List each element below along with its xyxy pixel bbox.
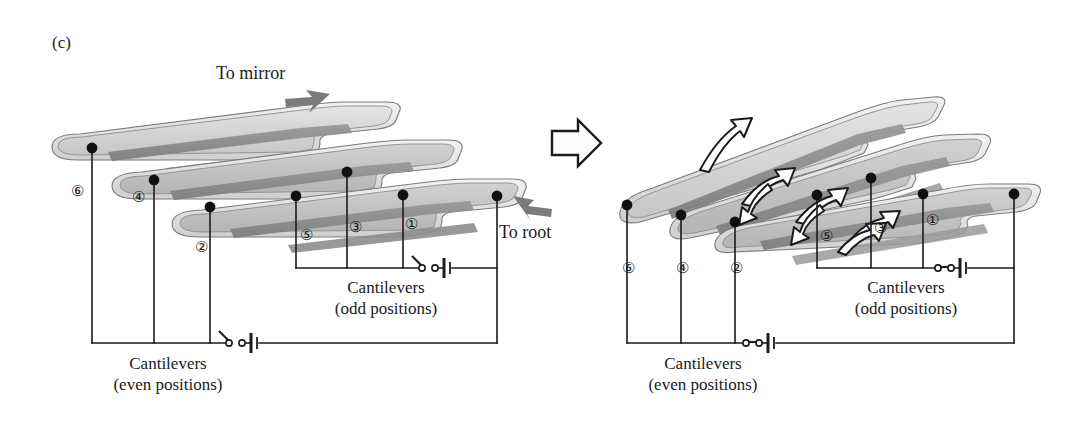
switch-battery-odd-left [412,256,450,278]
caption-even-left-line1: Cantilevers [78,354,258,373]
node-dot-4 [149,175,160,186]
node-dot-1 [918,189,929,200]
caption-even-right-line1: Cantilevers [613,354,793,373]
figure-panel-c: (c) To mirror To root ⑥ ④ ② ⑤ ③ ① Cantil… [0,0,1071,425]
switch-contact-a [743,340,749,346]
node-dot-3 [342,167,353,178]
caption-odd-left-line1: Cantilevers [306,278,466,297]
node-dot-4 [676,210,687,221]
cantilever-number-2-right: ② [730,260,743,277]
node-dot-6 [87,143,98,154]
to-mirror-label: To mirror [216,63,285,83]
node-dot-2 [730,217,741,228]
caption-odd-right-line2: (odd positions) [826,299,986,318]
caption-odd-left-line2: (odd positions) [306,299,466,318]
cantilever-number-6-right: ⑥ [622,260,635,277]
cantilever-number-5-left: ⑤ [300,227,313,244]
switch-battery-even-right [743,333,774,353]
caption-even-right-line2: (even positions) [598,375,808,394]
cantilever-number-4-right: ④ [676,260,689,277]
switch-battery-even-left [219,331,257,353]
switch-contact-a [226,340,232,346]
cantilever-number-6-left: ⑥ [71,183,84,200]
switch-contact-b [239,340,245,346]
node-dot-common [1009,189,1020,200]
cantilever-number-2-left: ② [195,239,208,256]
caption-even-left-line2: (even positions) [63,375,273,394]
to-root-label: To root [499,222,551,242]
node-dot-6 [622,200,633,211]
node-dot-5 [291,191,302,202]
cantilever-number-1-right: ① [926,212,939,229]
caption-odd-right-line1: Cantilevers [826,278,986,297]
to-root-arrow [513,196,552,221]
cantilever-number-4-left: ④ [132,189,145,206]
node-dot-3 [866,173,877,184]
cantilever-number-3-left: ③ [349,219,362,236]
state-transition-arrow [552,120,601,166]
switch-lever-open [219,331,228,340]
node-dot-5 [812,190,823,201]
switch-contact-a [419,265,425,271]
cantilever-number-3-right: ③ [874,220,887,237]
switch-battery-odd-right [935,258,966,278]
switch-contact-b [756,340,762,346]
switch-contact-b [432,265,438,271]
node-dot-2 [205,202,216,213]
cantilever-number-5-right: ⑤ [820,228,833,245]
switch-contact-a [935,265,941,271]
panel-tag: (c) [52,33,71,52]
switch-contact-b [948,265,954,271]
cantilever-number-1-left: ① [405,216,418,233]
node-dot-common [492,191,503,202]
node-dot-1 [398,190,409,201]
switch-lever-open [412,256,421,265]
